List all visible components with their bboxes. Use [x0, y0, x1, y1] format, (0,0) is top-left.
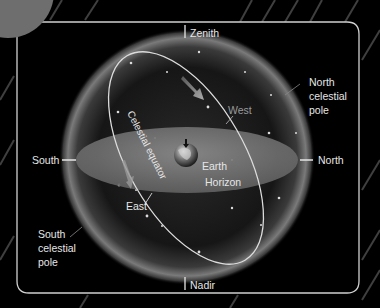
horizon-label: Horizon — [205, 176, 241, 188]
svg-text:pole: pole — [309, 104, 329, 116]
east-label: East — [126, 200, 147, 212]
west-label: West — [228, 104, 252, 116]
svg-text:celestial: celestial — [38, 242, 76, 254]
svg-text:North: North — [309, 76, 335, 88]
svg-text:pole: pole — [38, 256, 58, 268]
svg-text:celestial: celestial — [309, 90, 347, 102]
earth-label: Earth — [202, 160, 227, 172]
south-label: South — [32, 154, 60, 166]
svg-text:South: South — [38, 228, 66, 240]
north-label: North — [318, 154, 344, 166]
nadir-label: Nadir — [190, 279, 216, 291]
zenith-label: Zenith — [190, 27, 219, 39]
celestial-sphere-figure: Zenith Nadir South North East Earth Hori… — [0, 0, 380, 308]
